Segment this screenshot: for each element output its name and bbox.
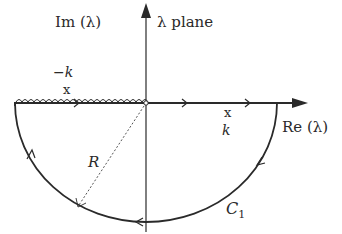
point-k-marker: x bbox=[224, 105, 232, 120]
branch-cut-wavy-line bbox=[16, 100, 148, 103]
contour-name: C bbox=[226, 199, 238, 218]
contour-label: C1 bbox=[226, 199, 245, 221]
plane-label: λ plane bbox=[157, 13, 213, 31]
radius-label: R bbox=[87, 153, 99, 171]
point-minus-k-marker: x bbox=[63, 82, 71, 97]
point-minus-k-label: −k bbox=[53, 64, 73, 80]
origin-branch-point bbox=[144, 101, 148, 105]
real-axis bbox=[14, 98, 308, 108]
contour-diagram: Im (λ) λ plane −k x x k Re (λ) R C1 bbox=[0, 0, 342, 234]
point-k-label: k bbox=[222, 122, 230, 138]
axis-arrow-up-icon bbox=[141, 3, 151, 18]
axis-arrow-right-icon bbox=[292, 98, 308, 108]
radius-arrow-icon bbox=[76, 198, 86, 207]
imaginary-axis bbox=[141, 3, 151, 232]
imaginary-axis-label: Im (λ) bbox=[55, 13, 101, 31]
contour-subscript: 1 bbox=[238, 208, 245, 221]
real-axis-label: Re (λ) bbox=[282, 118, 328, 136]
